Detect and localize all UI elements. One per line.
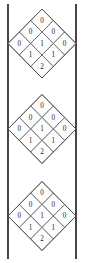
cell-value-label: 0 (63, 125, 67, 133)
cell-value-label: 2 (40, 63, 44, 71)
cell-value-label: 1 (52, 224, 56, 232)
cell-value-label: 2 (40, 235, 44, 243)
cell-value-label: 2 (40, 148, 44, 156)
cell-value-label: 0 (40, 102, 44, 110)
cell-value-label: 1 (29, 137, 33, 145)
cell-value-label: 0 (40, 189, 44, 197)
cell-value-label: 1 (40, 212, 44, 220)
cell-value-label: 0 (40, 17, 44, 25)
cell-value-label: 1 (29, 51, 33, 59)
cell-value-label: 0 (29, 201, 33, 209)
cell-value-label: 0 (63, 40, 67, 48)
cell-value-label: 0 (18, 212, 22, 220)
cell-value-label: 1 (52, 51, 56, 59)
diamond-stack: 000010112000010112000010112 (8, 9, 76, 251)
cell-value-label: 0 (29, 114, 33, 122)
cell-value-label: 1 (40, 125, 44, 133)
cell-value-label: 1 (29, 224, 33, 232)
diamond-lattice-figure: 000010112000010112000010112 (0, 0, 85, 263)
cell-value-label: 0 (52, 201, 56, 209)
cell-value-label: 0 (29, 28, 33, 36)
cell-value-label: 0 (52, 114, 56, 122)
cell-value-label: 0 (52, 28, 56, 36)
cell-value-label: 0 (18, 125, 22, 133)
cell-value-label: 0 (63, 212, 67, 220)
cell-value-label: 1 (52, 137, 56, 145)
cell-value-label: 1 (40, 40, 44, 48)
cell-value-label: 0 (18, 40, 22, 48)
